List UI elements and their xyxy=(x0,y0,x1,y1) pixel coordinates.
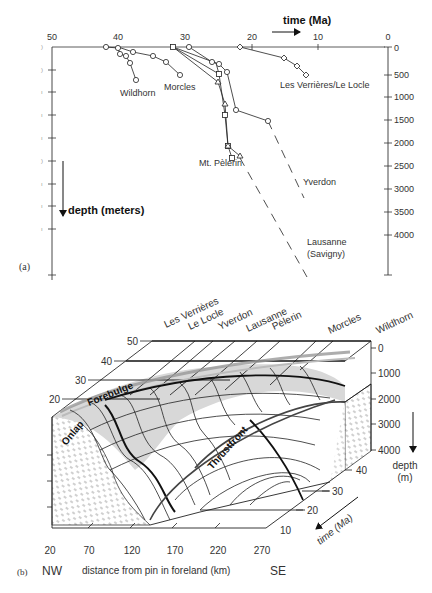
distance-tick: 20 xyxy=(44,545,56,556)
depth-tick: 4000 xyxy=(378,445,401,456)
time-tick: 40 xyxy=(101,356,113,367)
time-tick: 50 xyxy=(47,32,57,42)
time-tick: 0 xyxy=(385,32,390,42)
nw-label: NW xyxy=(42,564,63,578)
depth-tick: 3500 xyxy=(394,207,414,217)
series-wildhorn xyxy=(103,44,182,82)
depth-tick: 3000 xyxy=(394,184,414,194)
time-tick: 30 xyxy=(75,375,87,386)
label-wildhorn: Wildhorn xyxy=(120,88,156,98)
depth-tick: 4000 xyxy=(394,230,414,240)
label-savigny: (Savigny) xyxy=(307,249,345,259)
svg-text:): ) xyxy=(41,158,43,164)
label-les-verrieres: Les Verrières/Le Locle xyxy=(280,80,370,90)
panel-a-label: (a) xyxy=(19,261,30,273)
depth-tick: 1000 xyxy=(394,92,414,102)
label-lausanne: Lausanne xyxy=(307,237,347,247)
svg-text:ı: ı xyxy=(41,181,43,187)
series-lausanne xyxy=(240,158,307,277)
depth-ticks: 0 1000 2000 3000 4000 xyxy=(371,343,401,456)
time-axis-title: time (Ma) xyxy=(283,14,332,26)
time-tick: 30 xyxy=(180,32,190,42)
panel-b-3d-block: Les Verrières Le Locle Yverdon Lausanne … xyxy=(17,295,418,578)
se-label: SE xyxy=(270,564,286,578)
svg-text:ı: ı xyxy=(41,112,43,118)
station-labels: Les Verrières Le Locle Yverdon Lausanne … xyxy=(162,295,414,336)
depth-title: depth xyxy=(392,460,417,471)
depth-tick: 1500 xyxy=(394,115,414,125)
distance-tick: 120 xyxy=(124,545,141,556)
depth-unit: (m) xyxy=(398,472,413,483)
label-morcles: Morcles xyxy=(164,82,196,92)
distance-ticks: 20 70 120 170 220 270 xyxy=(44,545,270,556)
time-tick: 30 xyxy=(332,486,344,497)
depth-tick: 3000 xyxy=(378,419,401,430)
depth-tick: 1000 xyxy=(378,368,401,379)
svg-text:): ) xyxy=(41,67,43,73)
depth-tick: 2500 xyxy=(394,161,414,171)
label-yverdon: Yverdon xyxy=(303,177,336,187)
distance-tick: 70 xyxy=(83,545,95,556)
time-tick: 20 xyxy=(247,32,257,42)
label-mt-pelerin: Mt. Pèlerin xyxy=(199,158,242,168)
right-basement-block xyxy=(345,384,371,470)
annotation-thrustfront: Thrustfront xyxy=(205,423,250,471)
station-label: Wildhorn xyxy=(374,309,414,336)
time-axis-ticks: 50 40 30 20 10 0 xyxy=(47,32,391,42)
time-tick: 50 xyxy=(127,336,139,347)
time-tick: 10 xyxy=(280,525,292,536)
time-tick: 20 xyxy=(49,394,61,405)
series-mt-pelerin xyxy=(171,45,244,161)
distance-tick: 220 xyxy=(210,545,227,556)
series-yverdon xyxy=(186,44,304,198)
svg-text:ı: ı xyxy=(41,203,43,209)
svg-text:): ) xyxy=(41,44,43,50)
depth-tick: 0 xyxy=(378,343,384,354)
depth-axis-ticks: 0 500 1000 1500 2000 2500 3000 3500 4000 xyxy=(394,43,414,240)
depth-tick: 0 xyxy=(394,43,399,53)
front-time-ticks: 40 30 20 10 xyxy=(280,465,368,536)
time-tick: 20 xyxy=(307,505,319,516)
time-tick: 40 xyxy=(113,32,123,42)
time-tick: 40 xyxy=(356,465,368,476)
series-les-verrieres xyxy=(237,44,309,78)
panel-b-label: (b) xyxy=(17,567,28,577)
depth-axis-title: depth (meters) xyxy=(68,204,145,216)
svg-text:ı: ı xyxy=(41,89,43,95)
distance-tick: 270 xyxy=(254,545,271,556)
depth-tick: 2000 xyxy=(378,394,401,405)
distance-axis-title: distance from pin in foreland (km) xyxy=(82,565,230,576)
station-label: Morcles xyxy=(326,311,362,336)
depth-tick: 500 xyxy=(394,70,409,80)
svg-text:ı: ı xyxy=(41,226,43,232)
svg-text:ı: ı xyxy=(41,135,43,141)
depth-tick: 2000 xyxy=(394,138,414,148)
panel-a-subsidence-chart: time (Ma) 50 40 30 20 10 0 ))ı ıı) ııı xyxy=(19,14,414,280)
time-tick: 10 xyxy=(313,32,323,42)
distance-tick: 170 xyxy=(167,545,184,556)
time-axis-title: time (Ma) xyxy=(314,512,354,547)
figure-canvas: time (Ma) 50 40 30 20 10 0 ))ı ıı) ııı xyxy=(0,0,432,593)
